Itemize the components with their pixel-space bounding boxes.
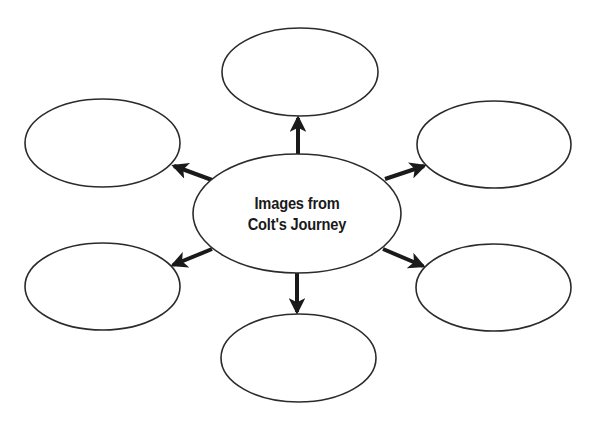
- outer-node-bottom[interactable]: [221, 314, 376, 402]
- outer-node-top-right[interactable]: [417, 101, 571, 188]
- center-label-line2: Colt's Journey: [248, 214, 347, 235]
- arrow-to-top-left: [174, 166, 212, 180]
- arrow-to-top-right: [385, 166, 424, 179]
- outer-node-top-left[interactable]: [25, 99, 180, 187]
- outer-node-bottom-right[interactable]: [416, 244, 571, 331]
- center-node-label: Images from Colt's Journey: [208, 154, 387, 273]
- center-label-line1: Images from: [254, 193, 339, 214]
- outer-node-top[interactable]: [222, 28, 378, 116]
- arrow-to-bottom-right: [383, 249, 423, 266]
- arrow-to-bottom-left: [173, 249, 212, 265]
- outer-node-bottom-left[interactable]: [25, 243, 180, 330]
